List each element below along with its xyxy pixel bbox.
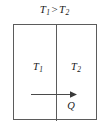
title-relation-operator: > (50, 3, 59, 15)
hot-region-label: T1 (27, 61, 49, 76)
heat-flow-label: Q (61, 100, 81, 112)
cold-region-subscript: 2 (77, 65, 81, 74)
diagram-title: T1>T2 (0, 1, 109, 21)
heat-flow-symbol: Q (67, 100, 75, 111)
title-cold-subscript: 2 (65, 8, 69, 17)
cold-region-label: T2 (65, 61, 87, 76)
hot-region-subscript: 1 (39, 65, 43, 74)
heat-transfer-diagram: T1>T2 T1 T2 Q (0, 0, 109, 129)
partition-wall (56, 24, 57, 121)
